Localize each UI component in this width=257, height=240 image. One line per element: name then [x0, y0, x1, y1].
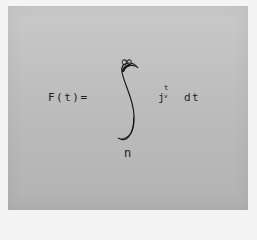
- integrand-superscript: t: [164, 84, 168, 92]
- integral-sign-icon: [114, 60, 144, 146]
- integrand-subscript: v: [164, 92, 168, 99]
- differential: dt: [184, 91, 200, 104]
- equation-lhs: F(t)=: [48, 91, 89, 104]
- integral-lower-limit: n: [124, 146, 131, 160]
